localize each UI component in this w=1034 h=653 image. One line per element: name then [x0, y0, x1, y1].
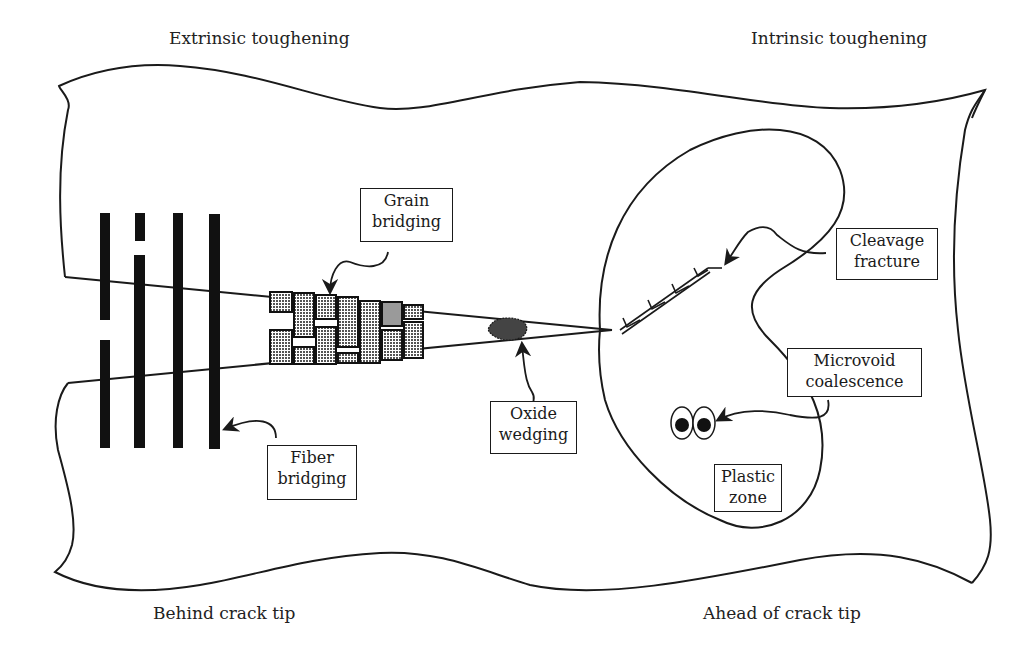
label-fiber-bridging: Fiber bridging	[267, 445, 357, 500]
crack-toughening-diagram	[0, 0, 1034, 653]
label-cleavage-fracture-line2: fracture	[841, 251, 933, 272]
fiber-1-upper	[100, 213, 110, 320]
oxide-debris	[488, 318, 526, 340]
label-cleavage-fracture-line1: Cleavage	[841, 230, 933, 251]
heading-behind-crack-tip: Behind crack tip	[153, 603, 295, 623]
specimen-outline-right	[954, 90, 991, 583]
label-plastic-zone: Plastic zone	[714, 464, 782, 512]
label-cleavage-fracture: Cleavage fracture	[836, 228, 938, 280]
fiber-1-lower	[100, 340, 110, 448]
label-grain-bridging-line2: bridging	[365, 211, 448, 232]
label-microvoid-coalescence-line2: coalescence	[792, 371, 917, 392]
grain-bridging-arrow	[330, 252, 388, 292]
label-microvoid-coalescence-line1: Microvoid	[792, 350, 917, 371]
microvoid-coalescence-arrow	[718, 400, 829, 420]
fiber-2-top-stub	[135, 213, 145, 241]
fiber-4	[209, 214, 220, 449]
cleavage-steps	[620, 268, 722, 334]
microvoids	[671, 407, 715, 439]
heading-intrinsic-toughening: Intrinsic toughening	[751, 28, 927, 48]
bridging-grains	[270, 292, 423, 364]
heading-ahead-of-crack-tip: Ahead of crack tip	[703, 603, 861, 623]
label-oxide-wedging-line1: Oxide	[495, 403, 572, 424]
label-microvoid-coalescence: Microvoid coalescence	[787, 348, 922, 397]
cleavage-fracture-arrow	[726, 227, 826, 263]
label-oxide-wedging-line2: wedging	[495, 424, 572, 445]
label-grain-bridging: Grain bridging	[360, 188, 453, 242]
fiber-bridging-arrow	[225, 421, 276, 438]
label-oxide-wedging: Oxide wedging	[490, 401, 577, 454]
label-fiber-bridging-line1: Fiber	[272, 447, 352, 468]
fiber-2-main	[134, 255, 145, 448]
label-plastic-zone-line2: zone	[719, 487, 777, 508]
label-plastic-zone-line1: Plastic	[719, 466, 777, 487]
label-fiber-bridging-line2: bridging	[272, 468, 352, 489]
fiber-3	[173, 213, 183, 448]
fibers	[100, 213, 220, 449]
heading-extrinsic-toughening: Extrinsic toughening	[169, 28, 350, 48]
label-grain-bridging-line1: Grain	[365, 190, 448, 211]
